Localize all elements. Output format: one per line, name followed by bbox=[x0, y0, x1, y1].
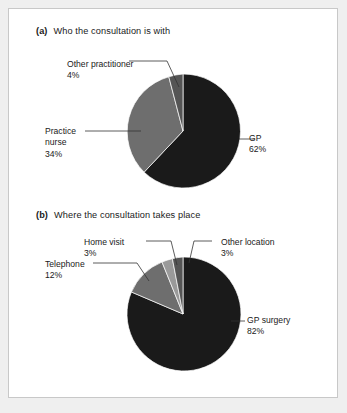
label-other-practitioner-name: Other practitioner bbox=[67, 59, 133, 69]
label-other-location-name: Other location bbox=[221, 237, 275, 247]
label-gp: GP 62% bbox=[249, 133, 266, 156]
label-practice-nurse: Practice nurse 34% bbox=[45, 126, 76, 160]
label-gp-surgery: GP surgery 82% bbox=[247, 315, 290, 338]
pie-charts-canvas bbox=[9, 9, 338, 398]
label-gp-name: GP bbox=[249, 133, 261, 143]
pie-chart-b bbox=[93, 241, 245, 371]
label-telephone-pct: 12% bbox=[45, 270, 85, 281]
figure-frame: (a)Who the consultation is with (b)Where… bbox=[8, 8, 338, 398]
label-other-practitioner: Other practitioner 4% bbox=[67, 59, 133, 82]
label-other-location-pct: 3% bbox=[221, 248, 275, 259]
label-other-location: Other location 3% bbox=[221, 237, 275, 260]
label-gp-pct: 62% bbox=[249, 144, 266, 155]
label-telephone-name: Telephone bbox=[45, 259, 85, 269]
label-practice-nurse-name: Practice bbox=[45, 126, 76, 136]
label-other-practitioner-pct: 4% bbox=[67, 70, 133, 81]
label-practice-nurse-pct: 34% bbox=[45, 149, 76, 160]
label-practice-nurse-name2: nurse bbox=[45, 137, 76, 148]
label-telephone: Telephone 12% bbox=[45, 259, 85, 282]
label-gp-surgery-pct: 82% bbox=[247, 326, 290, 337]
label-gp-surgery-name: GP surgery bbox=[247, 315, 290, 325]
label-home-visit-name: Home visit bbox=[84, 237, 124, 247]
label-home-visit: Home visit 3% bbox=[84, 237, 124, 260]
label-home-visit-pct: 3% bbox=[84, 248, 124, 259]
